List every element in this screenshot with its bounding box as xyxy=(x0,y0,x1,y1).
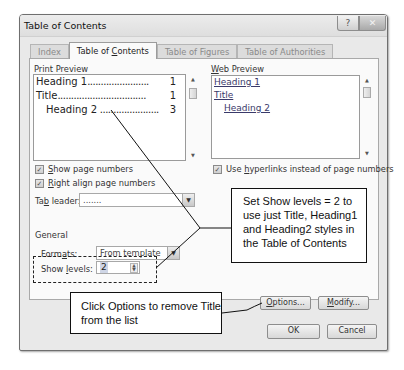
preview-line-text: Title xyxy=(36,90,57,101)
close-button[interactable]: ✕ xyxy=(359,16,386,31)
print-preview-label: Print Preview xyxy=(34,64,88,74)
check-icon: ✓ xyxy=(35,165,44,174)
tab-table-of-figures[interactable]: Table of Figures xyxy=(157,44,237,59)
web-link-title[interactable]: Title xyxy=(214,90,233,100)
modify-button[interactable]: Modify... xyxy=(318,296,369,310)
scroll-up-icon[interactable]: ▲ xyxy=(363,77,371,83)
web-link-heading1[interactable]: Heading 1 xyxy=(214,77,260,87)
preview-line-page: 1 xyxy=(170,76,176,87)
chevron-down-icon[interactable]: ▼ xyxy=(182,194,194,206)
scroll-down-icon[interactable]: ▼ xyxy=(189,152,197,158)
web-preview-scrollbar[interactable]: ▲ ▼ xyxy=(362,75,372,159)
leader-dots: ....................... xyxy=(87,76,149,87)
print-preview-scrollbar[interactable]: ▲ ▼ xyxy=(188,74,198,161)
title-bar[interactable]: Table of Contents ? ✕ xyxy=(20,15,387,37)
scroll-thumb[interactable] xyxy=(363,87,371,98)
callout-options: Click Options to remove Title from the l… xyxy=(70,292,222,334)
leader-dots: ................................. xyxy=(57,90,145,101)
preview-line-page: 3 xyxy=(170,104,176,115)
tab-leader-select[interactable]: ....... ▼ xyxy=(79,193,195,207)
ok-button[interactable]: OK xyxy=(267,324,320,339)
use-hyperlinks-label: Use hyperlinks instead of page numbers xyxy=(226,164,394,174)
tab-leader-value: ....... xyxy=(83,195,101,205)
dialog-title: Table of Contents xyxy=(24,20,107,31)
help-button[interactable]: ? xyxy=(337,16,359,31)
options-button[interactable]: Options... xyxy=(260,296,311,310)
cancel-button[interactable]: Cancel xyxy=(327,324,377,339)
right-align-label: Right align page numbers xyxy=(48,178,155,188)
tab-leader-label: Tab leader: xyxy=(35,196,81,206)
web-preview-label: Web Preview xyxy=(211,64,264,74)
web-link-heading2[interactable]: Heading 2 xyxy=(224,103,270,113)
tab-index[interactable]: Index xyxy=(30,44,69,59)
print-preview-box[interactable]: Heading 1.......................1 Title.… xyxy=(33,74,186,161)
leader-dots: ...................... xyxy=(97,104,159,115)
preview-line-heading1: Heading 1.......................1 xyxy=(36,76,176,87)
preview-line-text: Heading 1 xyxy=(36,76,87,87)
scroll-down-icon[interactable]: ▼ xyxy=(363,150,371,156)
preview-line-text: Heading 2 xyxy=(46,104,97,115)
scroll-up-icon[interactable]: ▲ xyxy=(189,76,197,82)
callout-show-levels: Set Show levels = 2 to use just Title, H… xyxy=(231,188,367,263)
check-icon: ✓ xyxy=(35,179,44,188)
use-hyperlinks-checkbox[interactable]: ✓ Use hyperlinks instead of page numbers xyxy=(213,164,394,174)
tab-strip: Index Table of Contents Table of Figures… xyxy=(30,42,333,59)
preview-line-heading2: Heading 2 ......................3 xyxy=(46,104,176,115)
close-icon: ✕ xyxy=(369,18,377,28)
right-align-checkbox[interactable]: ✓ Right align page numbers xyxy=(35,178,155,188)
help-icon: ? xyxy=(346,18,351,28)
preview-line-page: 1 xyxy=(170,90,176,101)
general-heading: General xyxy=(35,230,68,240)
tab-table-of-authorities[interactable]: Table of Authorities xyxy=(237,44,333,59)
tab-table-of-contents[interactable]: Table of Contents xyxy=(69,42,157,59)
show-levels-highlight xyxy=(33,256,157,283)
preview-line-title: Title.................................1 xyxy=(36,90,176,101)
show-page-numbers-label: Show page numbers xyxy=(48,164,133,174)
web-preview-box[interactable]: Heading 1 Title Heading 2 xyxy=(211,75,360,159)
show-page-numbers-checkbox[interactable]: ✓ Show page numbers xyxy=(35,164,133,174)
scroll-thumb[interactable] xyxy=(189,88,197,99)
check-icon: ✓ xyxy=(213,165,222,174)
chevron-down-icon[interactable]: ▼ xyxy=(167,247,179,259)
